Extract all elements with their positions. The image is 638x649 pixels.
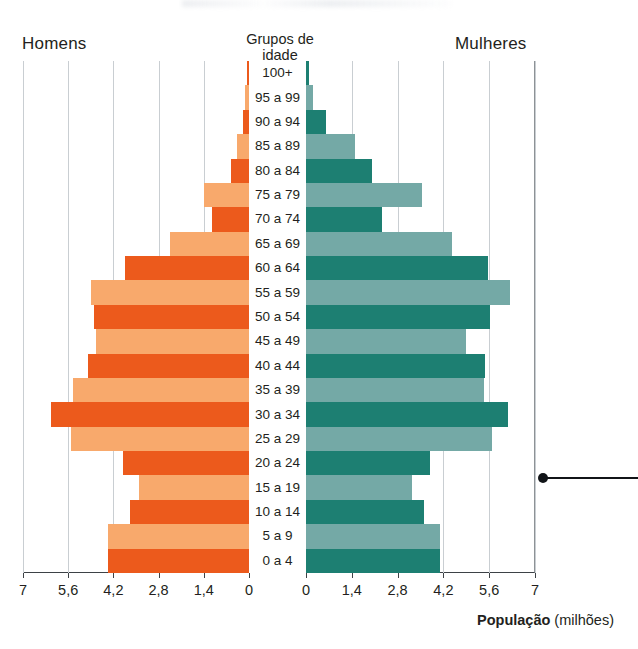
x-tick-right-3: 4,2: [433, 582, 453, 598]
age-group-label: 15 a 19: [249, 481, 306, 495]
bar-women-75-a-79: [306, 183, 422, 207]
x-tick-left-5-mark: [249, 573, 250, 578]
age-group-label: 70 a 74: [249, 212, 306, 226]
bar-women-50-a-54: [306, 305, 490, 329]
bar-men-80-a-84: [231, 159, 249, 183]
bar-women-15-a-19: [306, 475, 412, 499]
age-group-label: 95 a 99: [249, 91, 306, 105]
bar-women-70-a-74: [306, 207, 382, 231]
bar-women-0-a-4: [306, 549, 440, 573]
x-tick-left-3: 2,8: [149, 582, 169, 598]
x-tick-right-1: 1,4: [342, 582, 362, 598]
age-group-label: 85 a 89: [249, 139, 306, 153]
bar-men-85-a-89: [237, 134, 249, 158]
cropped-legend-remnant: [182, 0, 452, 7]
bar-men-50-a-54: [94, 305, 249, 329]
bar-men-5-a-9: [108, 524, 249, 548]
age-group-label: 80 a 84: [249, 164, 306, 178]
age-group-label: 0 a 4: [249, 554, 306, 568]
bar-women-80-a-84: [306, 159, 372, 183]
gridline-right-7: [535, 61, 536, 573]
x-tick-left-4-mark: [204, 573, 205, 578]
bar-women-85-a-89: [306, 134, 355, 158]
bar-women-25-a-29: [306, 427, 492, 451]
bar-women-35-a-39: [306, 378, 484, 402]
x-tick-right-4: 5,6: [479, 582, 499, 598]
bar-women-5-a-9: [306, 524, 440, 548]
bar-women-65-a-69: [306, 232, 452, 256]
x-axis-caption-rest: (milhões): [550, 612, 614, 628]
age-group-label: 75 a 79: [249, 188, 306, 202]
age-group-label: 60 a 64: [249, 261, 306, 275]
age-group-label: 90 a 94: [249, 115, 306, 129]
x-axis-caption-bold: População: [477, 612, 550, 628]
x-tick-right-0-mark: [306, 573, 307, 578]
age-groups-title-line1: Grupos de: [230, 31, 330, 47]
x-tick-left-4: 1,4: [194, 582, 214, 598]
bar-men-0-a-4: [108, 549, 249, 573]
bar-men-75-a-79: [204, 183, 249, 207]
bar-men-25-a-29: [71, 427, 249, 451]
women-side-title: Mulheres: [455, 34, 527, 54]
age-group-label: 65 a 69: [249, 237, 306, 251]
age-group-label: 50 a 54: [249, 310, 306, 324]
bar-men-65-a-69: [170, 232, 249, 256]
bar-women-30-a-34: [306, 402, 508, 426]
bar-women-45-a-49: [306, 329, 466, 353]
age-group-label: 55 a 59: [249, 286, 306, 300]
x-tick-right-2-mark: [398, 573, 399, 578]
bar-women-100+: [306, 61, 309, 85]
x-axis-caption: População (milhões): [477, 612, 614, 628]
bar-women-95-a-99: [306, 85, 313, 109]
age-group-label: 30 a 34: [249, 408, 306, 422]
x-tick-right-3-mark: [443, 573, 444, 578]
x-tick-left-2: 4,2: [103, 582, 123, 598]
bar-women-90-a-94: [306, 110, 326, 134]
x-tick-left-0: 7: [19, 582, 27, 598]
bar-women-60-a-64: [306, 256, 488, 280]
age-group-label: 100+: [249, 66, 306, 80]
callout-leader-line: [543, 477, 638, 479]
x-tick-right-0: 0: [302, 582, 310, 598]
bar-men-30-a-34: [51, 402, 249, 426]
bar-men-70-a-74: [212, 207, 249, 231]
bar-men-60-a-64: [125, 256, 249, 280]
x-tick-right-2: 2,8: [388, 582, 408, 598]
age-group-label: 5 a 9: [249, 529, 306, 543]
age-group-label: 10 a 14: [249, 505, 306, 519]
x-tick-right-5-mark: [535, 573, 536, 578]
bar-women-10-a-14: [306, 500, 424, 524]
x-tick-left-5: 0: [245, 582, 253, 598]
bar-men-15-a-19: [139, 475, 249, 499]
x-tick-right-1-mark: [352, 573, 353, 578]
callout-dot: [538, 473, 548, 483]
age-group-label: 20 a 24: [249, 456, 306, 470]
x-tick-left-1: 5,6: [58, 582, 78, 598]
x-tick-left-1-mark: [68, 573, 69, 578]
bar-men-40-a-44: [88, 354, 249, 378]
age-group-label: 45 a 49: [249, 334, 306, 348]
age-group-label: 40 a 44: [249, 359, 306, 373]
x-tick-right-4-mark: [489, 573, 490, 578]
bar-men-55-a-59: [91, 280, 249, 304]
age-groups-title: Grupos de idade: [230, 31, 330, 63]
x-tick-left-3-mark: [159, 573, 160, 578]
bar-men-35-a-39: [73, 378, 249, 402]
age-group-label: 35 a 39: [249, 383, 306, 397]
x-tick-left-0-mark: [23, 573, 24, 578]
bar-men-45-a-49: [96, 329, 249, 353]
bar-men-20-a-24: [123, 451, 249, 475]
bar-men-10-a-14: [130, 500, 249, 524]
x-tick-right-5: 7: [531, 582, 539, 598]
bar-women-40-a-44: [306, 354, 485, 378]
age-group-label: 25 a 29: [249, 432, 306, 446]
bar-women-20-a-24: [306, 451, 430, 475]
x-tick-left-2-mark: [113, 573, 114, 578]
bar-women-55-a-59: [306, 280, 510, 304]
men-side-title: Homens: [22, 34, 87, 54]
